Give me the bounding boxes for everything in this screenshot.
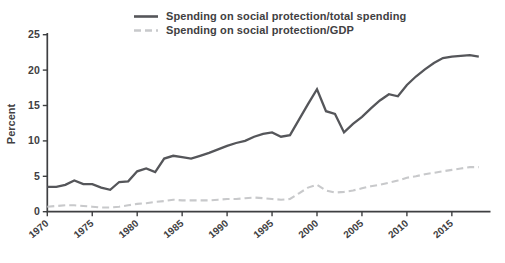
x-tick-label: 1995 [251, 217, 275, 240]
legend-label-total-spending: Spending on social protection/total spen… [166, 10, 406, 23]
legend: Spending on social protection/total spen… [133, 10, 406, 37]
y-tick-label: 10 [28, 134, 40, 146]
x-tick-label: 1990 [206, 217, 230, 240]
x-tick-label: 1975 [71, 217, 95, 240]
y-tick-label: 20 [28, 64, 40, 76]
x-tick-label: 2010 [386, 217, 410, 240]
x-tick-label: 1970 [26, 217, 50, 240]
x-tick-label: 1985 [161, 217, 185, 240]
solid-line-swatch-icon [133, 13, 159, 20]
x-tick-label: 2015 [431, 217, 455, 240]
total-spending-line [47, 55, 479, 190]
y-tick-label: 15 [28, 99, 40, 111]
legend-item-gdp: Spending on social protection/GDP [133, 24, 406, 37]
dashed-line-swatch-icon [133, 27, 159, 34]
legend-label-gdp: Spending on social protection/GDP [166, 24, 354, 37]
x-tick-label: 2000 [296, 217, 320, 240]
axis-line [47, 33, 490, 212]
legend-item-total-spending: Spending on social protection/total spen… [133, 10, 406, 23]
line-chart: 0510152025197019751980198519901995200020… [0, 0, 505, 263]
y-tick-label: 25 [28, 28, 40, 40]
x-tick-label: 1980 [116, 217, 140, 240]
y-axis-title: Percent [5, 103, 17, 144]
y-tick-label: 5 [34, 170, 40, 182]
x-tick-label: 2005 [341, 217, 365, 240]
y-tick-label: 0 [34, 205, 40, 217]
chart-figure: Spending on social protection/total spen… [0, 0, 505, 263]
